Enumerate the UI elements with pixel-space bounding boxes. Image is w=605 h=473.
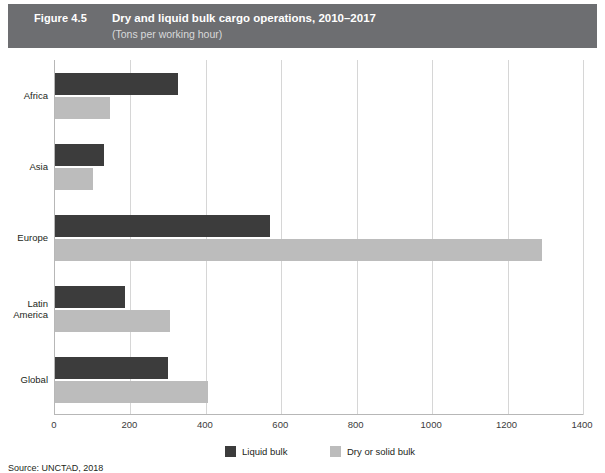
y-axis-label-africa: Africa	[0, 90, 48, 101]
y-label-line: Asia	[0, 161, 48, 172]
chart-legend: Liquid bulk Dry or solid bulk	[0, 446, 605, 462]
x-tick-label-200: 200	[121, 419, 137, 430]
legend-swatch-liquid-bulk	[225, 446, 236, 457]
y-label-line: Global	[0, 374, 48, 385]
gridline-400	[206, 60, 207, 415]
legend-label-liquid-bulk: Liquid bulk	[242, 446, 287, 457]
y-label-line: Africa	[0, 90, 48, 101]
y-label-line: Latin	[0, 298, 48, 309]
gridline-1000	[432, 60, 433, 415]
source-note: Source: UNCTAD, 2018	[8, 463, 103, 473]
x-axis-line	[54, 414, 583, 415]
figure-title: Dry and liquid bulk cargo operations, 20…	[112, 12, 376, 24]
legend-item-liquid-bulk: Liquid bulk	[225, 446, 287, 457]
x-tick-label-1000: 1000	[421, 419, 442, 430]
x-tick-label-600: 600	[272, 419, 288, 430]
figure-number: Figure 4.5	[34, 12, 87, 24]
legend-swatch-dry-bulk	[330, 446, 341, 457]
legend-label-dry-bulk: Dry or solid bulk	[347, 446, 415, 457]
bar-europe-liquid-bulk	[55, 215, 270, 237]
bar-global-liquid-bulk	[55, 357, 168, 379]
x-tick-label-1400: 1400	[571, 419, 592, 430]
bar-asia-dry-or-solid-bulk	[55, 168, 93, 190]
y-label-line: Europe	[0, 232, 48, 243]
figure-header-banner: Figure 4.5 Dry and liquid bulk cargo ope…	[8, 4, 597, 48]
gridline-800	[357, 60, 358, 415]
bar-africa-dry-or-solid-bulk	[55, 97, 110, 119]
bar-latin-america-dry-or-solid-bulk	[55, 310, 170, 332]
x-tick-label-400: 400	[197, 419, 213, 430]
x-tick-label-0: 0	[51, 419, 56, 430]
bar-asia-liquid-bulk	[55, 144, 104, 166]
legend-item-dry-bulk: Dry or solid bulk	[330, 446, 415, 457]
y-label-line: America	[0, 309, 48, 320]
bar-africa-liquid-bulk	[55, 73, 178, 95]
plot-area	[54, 60, 582, 415]
y-axis-label-global: Global	[0, 374, 48, 385]
gridline-600	[281, 60, 282, 415]
gridline-1400	[583, 60, 584, 415]
bar-global-dry-or-solid-bulk	[55, 381, 208, 403]
x-tick-label-800: 800	[348, 419, 364, 430]
figure-subtitle: (Tons per working hour)	[112, 28, 222, 40]
y-axis-label-asia: Asia	[0, 161, 48, 172]
bar-europe-dry-or-solid-bulk	[55, 239, 542, 261]
gridline-1200	[508, 60, 509, 415]
bar-latin-america-liquid-bulk	[55, 286, 125, 308]
y-axis-label-latin-america: LatinAmerica	[0, 298, 48, 320]
y-axis-label-europe: Europe	[0, 232, 48, 243]
x-tick-label-1200: 1200	[496, 419, 517, 430]
